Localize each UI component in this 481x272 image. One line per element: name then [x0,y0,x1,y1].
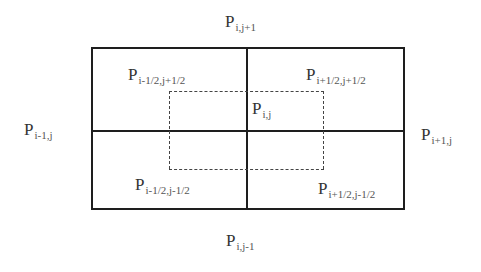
label-bottom-left-corner: Pi-1/2,j-1/2 [135,176,190,196]
label-center-node: Pi,j [252,100,271,120]
label-bottom-neighbor: Pi,j-1 [226,232,255,252]
label-top-right-corner: Pi+1/2,j+1/2 [306,66,366,86]
center-vertical-line [246,47,248,210]
outer-box-left [91,47,93,210]
outer-box-bottom [91,208,405,210]
label-right-neighbor: Pi+1,j [421,126,452,146]
outer-box-right [403,47,405,210]
control-volume-right [323,91,324,169]
control-volume-left [169,91,170,169]
control-volume-top [169,91,324,92]
control-volume-bottom [169,169,324,170]
center-horizontal-line [91,130,405,132]
outer-box-top [91,47,405,49]
label-top-neighbor: Pi,j+1 [225,13,256,33]
label-bottom-right-corner: Pi+1/2,j-1/2 [318,180,375,200]
label-left-neighbor: Pi-1,j [24,121,53,141]
label-top-left-corner: Pi-1/2,j+1/2 [128,66,185,86]
